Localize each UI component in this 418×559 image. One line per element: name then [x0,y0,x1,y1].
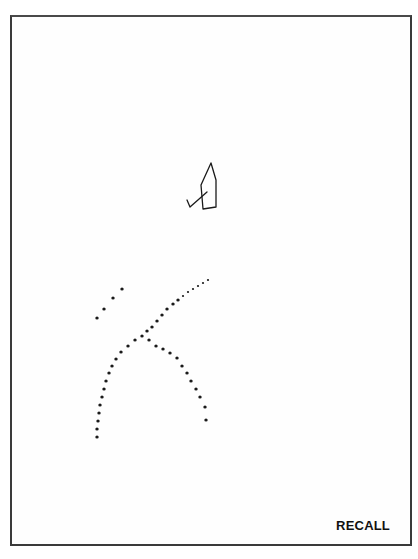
drawing-canvas [0,0,418,559]
dot [197,285,199,287]
dot [192,288,194,290]
dot [176,299,179,302]
dot [95,436,98,439]
sketch-outline [201,163,216,209]
dot-trails [95,279,209,439]
dot [102,388,105,391]
dot [96,420,99,423]
dot [120,288,123,291]
dot [171,303,174,306]
dot [98,404,101,407]
dot [202,282,204,284]
dot [111,297,114,300]
dot [203,406,206,409]
dot [175,357,178,360]
dot [154,345,157,348]
dot [107,372,110,375]
dot [161,348,164,351]
dot [133,339,136,342]
dot [102,308,105,311]
dot [147,339,150,342]
dot [126,345,129,348]
dot [207,279,209,281]
dot [114,358,117,361]
dot [145,330,148,333]
dot [140,335,143,338]
dot [194,388,197,391]
dot [185,372,188,375]
sketch-figure [187,163,216,209]
dot [160,314,163,317]
dot [198,396,201,399]
dot [180,365,183,368]
dot [95,428,98,431]
dot [189,380,192,383]
dot [155,320,158,323]
sketch-hook [187,192,207,207]
dot [104,380,107,383]
dot [110,365,113,368]
dot [182,295,184,297]
dot [100,396,103,399]
recall-label: RECALL [336,518,390,533]
dot [204,419,207,422]
dot [168,352,171,355]
dot [119,351,122,354]
dot [187,291,189,293]
dot [150,326,153,329]
dot [95,317,98,320]
dot [97,412,100,415]
dot [165,308,168,311]
